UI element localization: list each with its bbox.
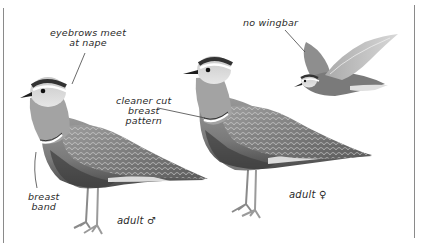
field-guide-plate: eyebrows meet at nape no wingbar cleaner… (0, 0, 426, 246)
wingbar-pointer-line (285, 30, 305, 52)
eyebrows-annotation-line2: at nape (50, 38, 126, 48)
breast-band-pointer-line (35, 152, 37, 188)
eyebrows-pointer-line (72, 53, 85, 84)
adult-male-caption-text: adult ♂ (117, 215, 156, 226)
eyebrows-annotation: eyebrows meet at nape (50, 28, 126, 48)
breast-pattern-annotation: cleaner cut breast pattern (116, 96, 172, 126)
adult-female-caption: adult ♀ (289, 190, 326, 200)
adult-male-caption: adult ♂ (117, 216, 156, 226)
breast-band-line2: band (28, 202, 59, 212)
wingbar-annotation: no wingbar (243, 18, 298, 28)
breast-band-annotation: breast band (28, 192, 59, 212)
flying-bird (294, 34, 398, 96)
breast-pattern-line3: pattern (116, 116, 172, 126)
adult-female-caption-text: adult ♀ (289, 189, 326, 200)
wingbar-annotation-text: no wingbar (243, 18, 298, 28)
